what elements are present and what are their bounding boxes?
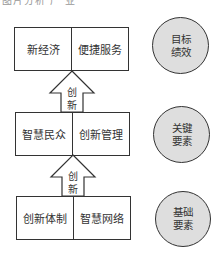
cropped-text: 图片分析 产 业 <box>2 0 76 5</box>
cell-innovative-management: 创新管理 <box>72 113 129 155</box>
target-level-box: 新经济 便捷服务 <box>14 27 129 71</box>
arrow-label: 创 新 <box>66 170 80 196</box>
base-level-box: 创新体制 智慧网络 <box>16 196 131 240</box>
circle-label-line2: 要素 <box>173 219 193 232</box>
arrow-label-line2: 新 <box>65 99 79 112</box>
circle-label-line2: 要素 <box>172 135 192 148</box>
key-elements-circle: 关键 要素 <box>153 106 210 163</box>
arrow-label-line1: 创 <box>66 170 80 183</box>
circle-label-line1: 基础 <box>173 206 193 219</box>
cell-convenient-service: 便捷服务 <box>71 28 128 70</box>
cell-smart-citizens: 智慧民众 <box>16 113 72 155</box>
circle-label-line2: 绩效 <box>171 46 191 59</box>
target-performance-circle: 目标 绩效 <box>152 17 209 74</box>
key-level-box: 智慧民众 创新管理 <box>15 112 130 156</box>
cell-innovation-system: 创新体制 <box>17 197 73 239</box>
circle-label-line1: 关键 <box>172 122 192 135</box>
arrow-label-line1: 创 <box>65 86 79 99</box>
cropped-header-text: 图片分析 产 业 <box>0 0 224 5</box>
arrow-label-line2: 新 <box>66 183 80 196</box>
cell-smart-network: 智慧网络 <box>73 197 130 239</box>
circle-label-line1: 目标 <box>171 33 191 46</box>
arrow-label: 创 新 <box>65 86 79 112</box>
base-elements-circle: 基础 要素 <box>155 191 211 247</box>
cell-new-economy: 新经济 <box>15 28 71 70</box>
